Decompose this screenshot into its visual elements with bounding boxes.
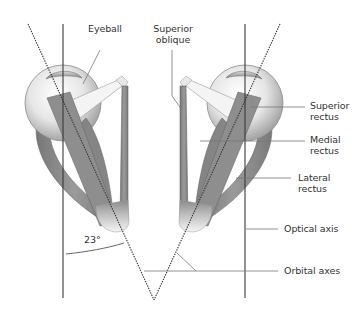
eyeball-label: Eyeball [88,23,122,34]
superior-rectus-label-line1: Superior [310,100,349,111]
lateral-rectus-label-line1: Lateral [298,172,330,183]
angle-label: 23° [84,234,101,245]
optical-axis-label: Optical axis [284,223,338,234]
superior-rectus-label-line2: rectus [310,111,349,122]
superior-oblique-label: Superior oblique [148,23,198,45]
superior-rectus-label: Superior rectus [310,100,349,122]
orbital-axes-label: Orbital axes [284,265,340,276]
superior-oblique-label-line2: oblique [148,34,198,45]
medial-rectus-label: Medial rectus [310,134,341,156]
lateral-rectus-label: Lateral rectus [298,172,330,194]
right-eye-group [179,65,283,232]
medial-rectus-label-line2: rectus [310,145,341,156]
medial-rectus-label-line1: Medial [310,134,341,145]
extraocular-muscles-diagram: Eyeball Superior oblique Superior rectus… [0,0,363,314]
superior-oblique-label-line1: Superior [148,23,198,34]
orbital-axes-leader-branch [177,253,196,271]
lateral-rectus-label-line2: rectus [298,183,330,194]
left-eye-group [25,65,129,232]
